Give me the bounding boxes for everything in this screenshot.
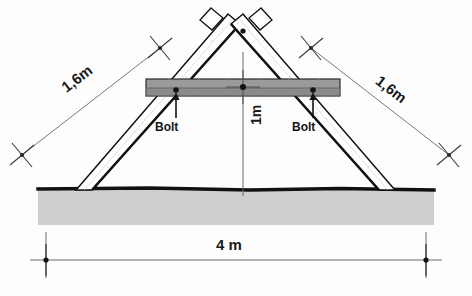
diagram-canvas: 1,6m 1,6m 1m 4 m Bolt Bolt [0, 0, 472, 296]
dimension-left-leg [10, 36, 172, 167]
dimension-right-leg [299, 36, 461, 167]
ground-band [38, 188, 434, 225]
bolt-label-right: Bolt [292, 120, 315, 134]
dimension-label-span: 4 m [216, 236, 242, 253]
dimension-label-height: 1m [248, 105, 264, 125]
bolt-label-left: Bolt [155, 120, 178, 134]
apex-bolt-dot [240, 28, 245, 33]
beam-centre-tick [226, 70, 260, 104]
